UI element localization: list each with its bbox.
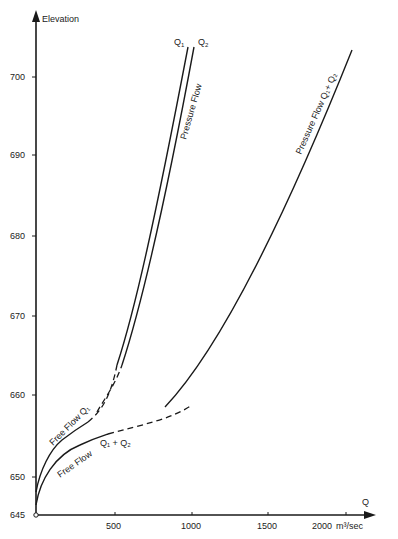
x-axis-label: Q <box>362 497 369 507</box>
label-free-flow-q1: Free Flow Q₁ <box>47 403 91 447</box>
label-q2: Q2 <box>198 37 209 48</box>
curve-pressure-flow-q2 <box>122 47 194 365</box>
x-tick-2000: 2000 <box>312 521 332 531</box>
y-tick-680: 680 <box>10 231 25 241</box>
y-axis-label: Elevation <box>42 14 79 24</box>
curve-q2-transition <box>97 365 122 412</box>
curve-pressure-flow-q1 <box>117 47 188 365</box>
label-pressure-flow-sum: Pressure Flow Q₁+ Q₂ <box>294 71 339 156</box>
y-tick-670: 670 <box>10 311 25 321</box>
x-tick-1500: 1500 <box>257 521 277 531</box>
curve-q1-transition <box>88 365 117 422</box>
x-tick-1000: 1000 <box>181 521 201 531</box>
label-free-flow: Free Flow <box>55 448 94 479</box>
label-q1-plus-q2: Q₁ + Q₂ <box>100 438 131 448</box>
x-tick-500: 500 <box>106 521 121 531</box>
y-tick-650: 650 <box>10 472 25 482</box>
y-tick-660: 660 <box>10 390 25 400</box>
y-tick-645: 645 <box>10 510 25 520</box>
curve-sum-transition <box>108 405 192 434</box>
y-axis-arrow-icon <box>32 10 40 22</box>
label-q1: Q1 <box>174 37 185 48</box>
y-tick-690: 690 <box>10 150 25 160</box>
chart-canvas: Elevation Q m³/sec 700 690 680 670 660 6… <box>0 0 398 539</box>
x-axis-arrow-icon <box>364 511 376 519</box>
y-tick-700: 700 <box>10 72 25 82</box>
y-ticks: 700 690 680 670 660 650 645 <box>10 72 36 520</box>
origin-marker <box>34 513 38 517</box>
x-axis-unit: m³/sec <box>336 521 364 531</box>
